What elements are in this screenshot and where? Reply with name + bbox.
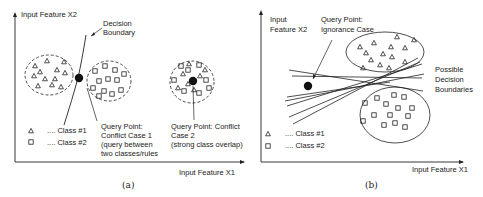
panel-b-class2-cluster	[360, 87, 430, 143]
possible-boundaries-label-1: Possible	[435, 65, 463, 75]
query2-label-3: (strong class overlap)	[171, 140, 243, 150]
panel-b-y-axis-label-2: Feature X2	[270, 25, 307, 35]
panel-b-query-pointer	[313, 40, 332, 79]
panel-a-class1-cluster	[25, 55, 73, 95]
panel-b-query-label-2: Ignorance Case	[321, 25, 374, 35]
panel-a-x-axis-label: Input Feature X1	[179, 168, 235, 178]
panel-a-query-point-2	[189, 77, 197, 85]
panel-b-query-label-1: Query Point:	[321, 15, 363, 25]
panel-a-y-axis-label: Input Feature X2	[21, 10, 77, 20]
panel-b-legend-class2: .... Class #2	[285, 141, 325, 151]
possible-boundaries-label-2: Decision	[435, 75, 464, 85]
panel-b-class1-cluster	[346, 32, 424, 72]
panel-b-query-point	[304, 82, 312, 90]
panel-a-legend-symbols	[29, 128, 34, 144]
panel-b-caption: (b)	[365, 180, 378, 190]
panel-a-query2-pointer	[193, 86, 194, 120]
panel-a-caption: (a)	[122, 180, 134, 190]
panel-a-class2-cluster	[87, 61, 131, 101]
panel-a-query-point-1	[75, 74, 83, 82]
panel-a-query1-pointer	[87, 88, 97, 121]
panel-a-legend-class1: .... Class #1	[47, 126, 87, 136]
panel-b-x-axis-label: Input Feature X1	[412, 165, 468, 175]
panel-b-y-axis-label-1: Input	[270, 15, 287, 25]
possible-boundaries-label-3: Boundaries	[435, 85, 473, 95]
query1-label-4: two classes/rules	[101, 149, 158, 159]
decision-boundary-label-2: Boundary	[103, 28, 135, 38]
panel-b-possible-boundaries	[285, 58, 424, 124]
panel-b-legend-symbols	[266, 131, 271, 148]
panel-b-legend-class1: .... Class #1	[285, 129, 325, 139]
panel-a-legend-class2: .... Class #2	[47, 138, 87, 148]
diagram-canvas	[0, 0, 483, 197]
panel-a-decision-boundary	[64, 28, 102, 125]
